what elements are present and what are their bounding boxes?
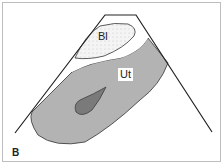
diagram-root: Bl Ut B [0,0,224,165]
panel-label: B [12,147,19,158]
label-bladder: Bl [98,30,108,42]
ultrasound-sector-diagram [0,0,224,165]
label-uterus: Ut [118,68,133,81]
